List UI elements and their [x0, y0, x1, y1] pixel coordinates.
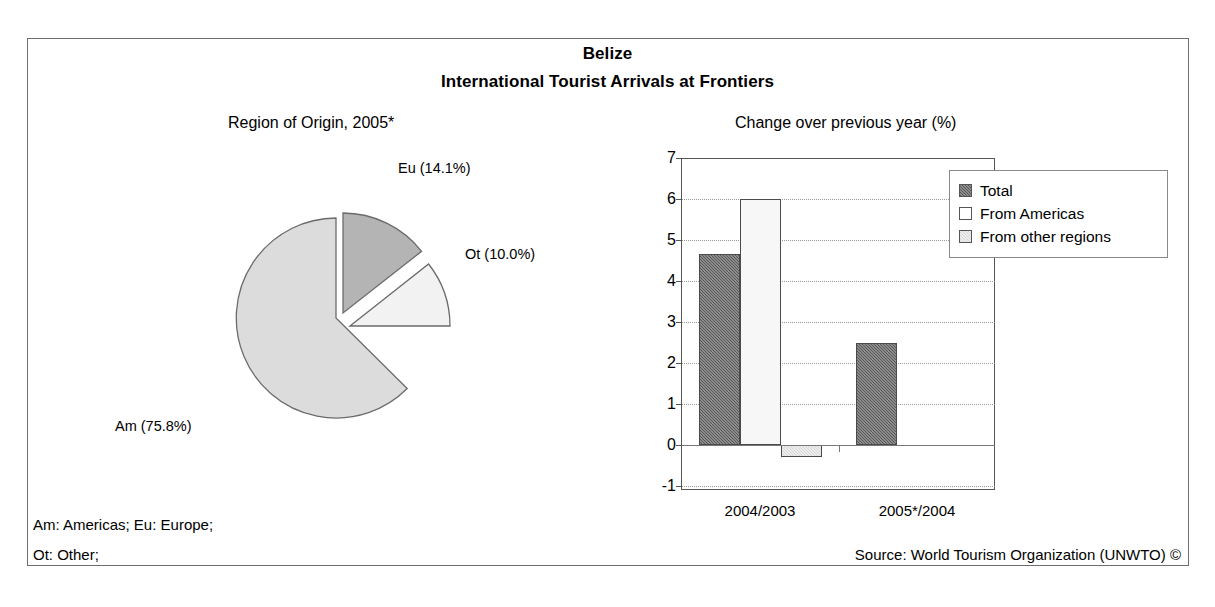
pie-chart-svg — [180, 150, 610, 480]
pie-label-am: Am (75.8%) — [115, 418, 192, 434]
bar-americas-2004-2003[interactable] — [740, 199, 781, 445]
y-tickmark-3 — [676, 322, 682, 323]
y-tickmark-7 — [676, 158, 682, 159]
y-tickmark-6 — [676, 199, 682, 200]
y-tick-4: 4 — [642, 273, 676, 289]
bar-chart: 7 6 5 4 3 2 1 0 -1 — [640, 150, 1180, 510]
pie-label-eu: Eu (14.1%) — [398, 160, 471, 176]
y-axis-ticks: 7 6 5 4 3 2 1 0 -1 — [640, 150, 676, 510]
y-tickmark-5 — [676, 240, 682, 241]
y-tickmark-neg-1 — [676, 486, 682, 487]
legend-item-total[interactable]: Total — [959, 179, 1158, 202]
source-attribution: Source: World Tourism Organization (UNWT… — [855, 546, 1181, 563]
gridline-neg-1 — [682, 486, 995, 487]
x-label-2005-2004: 2005*/2004 — [879, 502, 956, 519]
page-subtitle: International Tourist Arrivals at Fronti… — [0, 72, 1215, 92]
y-tickmark-2 — [676, 363, 682, 364]
bar-total-2005-2004[interactable] — [856, 343, 897, 445]
bar-other-regions-2004-2003[interactable] — [781, 445, 822, 457]
legend-item-from-other-regions[interactable]: From other regions — [959, 225, 1158, 248]
y-tick-1: 1 — [642, 396, 676, 412]
footnote-abbreviations-2: Ot: Other; — [33, 546, 99, 563]
legend-swatch-americas-icon — [959, 207, 972, 220]
y-tickmark-4 — [676, 281, 682, 282]
pie-chart: Eu (14.1%) Ot (10.0%) Am (75.8%) — [180, 150, 610, 480]
chart-legend: Total From Americas From other regions — [949, 170, 1168, 258]
legend-label-from-americas: From Americas — [980, 205, 1084, 223]
bar-total-2004-2003[interactable] — [699, 254, 740, 445]
y-tick-0: 0 — [642, 437, 676, 453]
zero-baseline — [682, 445, 995, 446]
legend-swatch-total-icon — [959, 184, 972, 197]
bar-panel-title: Change over previous year (%) — [735, 114, 956, 132]
footnote-abbreviations-1: Am: Americas; Eu: Europe; — [33, 516, 213, 533]
y-tickmark-1 — [676, 404, 682, 405]
plot-top-border — [682, 158, 995, 159]
legend-label-from-other-regions: From other regions — [980, 228, 1111, 246]
chart-page: Belize International Tourist Arrivals at… — [0, 0, 1215, 607]
y-tick-7: 7 — [642, 150, 676, 166]
legend-label-total: Total — [980, 182, 1013, 200]
y-tick-neg-1: -1 — [642, 478, 676, 494]
pie-label-ot: Ot (10.0%) — [465, 246, 535, 262]
pie-panel-title: Region of Origin, 2005* — [228, 114, 394, 132]
plot-area — [681, 158, 995, 490]
x-tickmark-mid — [839, 445, 840, 452]
x-label-2004-2003: 2004/2003 — [725, 502, 796, 519]
y-tick-5: 5 — [642, 232, 676, 248]
y-tick-6: 6 — [642, 191, 676, 207]
y-tick-2: 2 — [642, 355, 676, 371]
legend-item-from-americas[interactable]: From Americas — [959, 202, 1158, 225]
y-tick-3: 3 — [642, 314, 676, 330]
page-title: Belize — [0, 44, 1215, 64]
legend-swatch-other-icon — [959, 230, 972, 243]
